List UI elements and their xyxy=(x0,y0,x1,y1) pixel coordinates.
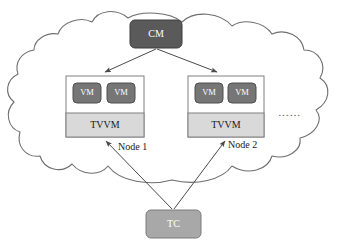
node-1-group[interactable]: TVVM VM VM Node 1 xyxy=(66,76,147,152)
node-2-tvvm-label: TVVM xyxy=(211,119,241,130)
edge-cm-to-node2 xyxy=(157,49,217,72)
tc-label: TC xyxy=(167,218,180,229)
edge-cm-to-node1 xyxy=(105,49,156,72)
node-1-tvvm-label: TVVM xyxy=(90,119,120,130)
tc-node[interactable]: TC xyxy=(146,210,201,238)
node-2-vm-1-label: VM xyxy=(202,87,216,97)
diagram-root: TVVM VM VM Node 1 TVVM VM VM Node 2 …… C… xyxy=(0,0,349,251)
node-2-caption: Node 2 xyxy=(228,139,257,150)
node-2-vm-2-label: VM xyxy=(235,87,249,97)
node-1-vm-1-label: VM xyxy=(80,87,94,97)
architecture-diagram-canvas: TVVM VM VM Node 1 TVVM VM VM Node 2 …… C… xyxy=(0,0,349,251)
more-nodes-ellipsis: …… xyxy=(278,106,301,118)
node-2-group[interactable]: TVVM VM VM Node 2 xyxy=(188,76,264,150)
cm-label: CM xyxy=(148,28,164,39)
cm-node[interactable]: CM xyxy=(130,20,182,48)
edge-tc-to-node2 xyxy=(174,141,225,209)
node-1-caption: Node 1 xyxy=(118,141,147,152)
node-1-vm-2-label: VM xyxy=(114,87,128,97)
